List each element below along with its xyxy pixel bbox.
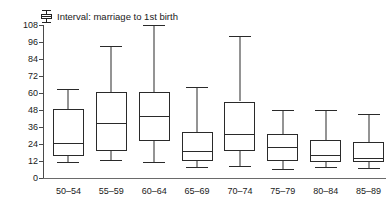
whisker-cap-upper: [57, 89, 79, 90]
boxplot-glyph-icon: [41, 10, 52, 23]
whisker-upper: [154, 25, 155, 92]
whisker-cap-lower: [315, 167, 337, 168]
whisker-cap-upper: [143, 25, 165, 26]
whisker-upper: [282, 110, 283, 134]
box-iqr: [139, 92, 170, 141]
y-axis-tick: [39, 59, 43, 60]
y-axis-tick: [39, 25, 43, 26]
y-axis-tick: [39, 178, 43, 179]
boxplot-box: [53, 25, 84, 179]
whisker-cap-upper: [186, 87, 208, 88]
y-axis-tick: [39, 110, 43, 111]
y-axis-tick: [39, 127, 43, 128]
y-axis-tick-label: 24: [28, 140, 38, 149]
whisker-upper: [111, 46, 112, 91]
median-line: [139, 116, 170, 117]
whisker-cap-lower: [143, 162, 165, 163]
x-axis-labels: 50–5455–5960–6465–6970–7475–7980–8485–89: [43, 186, 386, 202]
box-iqr: [96, 92, 127, 152]
whisker-lower: [239, 151, 240, 166]
boxplot-box: [224, 25, 255, 179]
median-line: [267, 147, 298, 148]
boxplot-chart: Interval: marriage to 1st birth 01224364…: [0, 0, 391, 214]
whisker-cap-upper: [100, 46, 122, 47]
whisker-cap-lower: [186, 167, 208, 168]
whisker-cap-lower: [229, 166, 251, 167]
y-axis-tick-label: 36: [28, 123, 38, 132]
box-iqr: [182, 132, 213, 161]
whisker-lower: [111, 151, 112, 160]
median-line: [53, 143, 84, 144]
x-axis-tick-label: 85–89: [339, 186, 391, 197]
boxplot-box: [139, 25, 170, 179]
whisker-cap-upper: [315, 110, 337, 111]
median-line: [224, 134, 255, 135]
chart-legend: Interval: marriage to 1st birth: [41, 9, 178, 23]
legend-label: Interval: marriage to 1st birth: [57, 11, 178, 22]
whisker-upper: [197, 87, 198, 132]
median-line: [353, 158, 384, 159]
y-axis-tick-label: 84: [28, 55, 38, 64]
box-iqr: [53, 109, 84, 156]
whisker-lower: [154, 141, 155, 162]
y-axis-tick-label: 0: [33, 174, 38, 183]
whisker-cap-upper: [272, 110, 294, 111]
y-axis-tick: [39, 144, 43, 145]
whisker-cap-lower: [57, 162, 79, 163]
box-iqr: [310, 140, 341, 163]
median-line: [182, 151, 213, 152]
boxplot-box: [96, 25, 127, 179]
y-axis-line: [43, 25, 44, 179]
y-axis-tick-label: 48: [28, 106, 38, 115]
y-axis-tick-label: 96: [28, 38, 38, 47]
whisker-cap-upper: [358, 114, 380, 115]
y-axis-tick: [39, 161, 43, 162]
y-axis-tick: [39, 76, 43, 77]
whisker-upper: [68, 89, 69, 110]
y-axis-tick: [39, 42, 43, 43]
y-axis-tick-label: 60: [28, 89, 38, 98]
boxplot-box: [310, 25, 341, 179]
y-axis-tick-label: 72: [28, 72, 38, 81]
whisker-upper: [325, 110, 326, 140]
boxplot-box: [267, 25, 298, 179]
whisker-cap-upper: [229, 36, 251, 37]
whisker-cap-lower: [100, 160, 122, 161]
whisker-upper: [368, 114, 369, 142]
boxplot-box: [182, 25, 213, 179]
median-line: [310, 155, 341, 156]
whisker-cap-lower: [272, 169, 294, 170]
whisker-cap-lower: [358, 168, 380, 169]
box-iqr: [224, 102, 255, 152]
y-axis-tick-label: 12: [28, 157, 38, 166]
y-axis-labels: 01224364860728496108: [14, 25, 38, 179]
median-line: [96, 123, 127, 124]
whisker-upper: [239, 36, 240, 101]
y-axis-tick: [39, 93, 43, 94]
plot-area: [43, 25, 386, 179]
whisker-lower: [282, 161, 283, 169]
boxplot-box: [353, 25, 384, 179]
y-axis-tick-label: 108: [23, 21, 38, 30]
